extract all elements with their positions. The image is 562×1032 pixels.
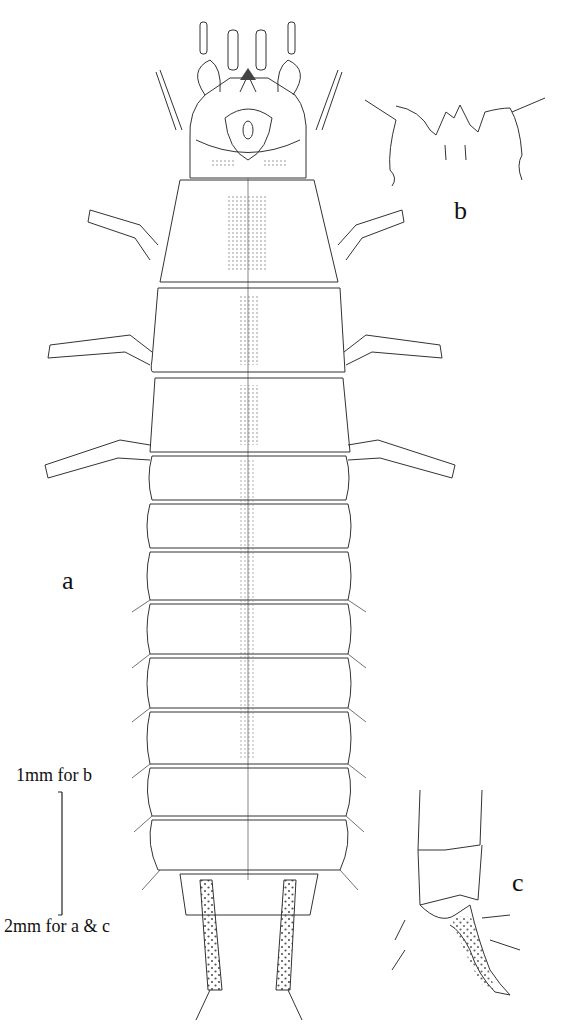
scale-label-b: 1mm for b <box>16 765 92 786</box>
panel-label-a: a <box>62 566 74 596</box>
scale-label-a-c: 2mm for a & c <box>4 916 110 937</box>
larva-illustration <box>0 0 562 1032</box>
panel-label-c: c <box>512 868 524 898</box>
abdominal-apex-lateral <box>392 790 520 995</box>
nasale-detail <box>365 98 545 186</box>
urogomphi <box>196 880 302 1020</box>
panel-label-b: b <box>454 196 467 226</box>
head <box>156 22 342 178</box>
scale-bar <box>58 792 62 915</box>
